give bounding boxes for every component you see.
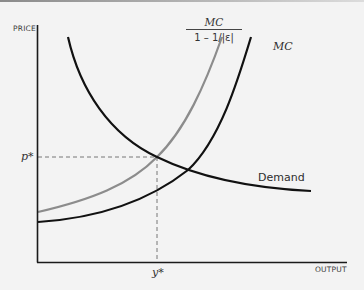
x-axis-label: OUTPUT — [315, 266, 347, 274]
y-axis-label: PRICE — [13, 25, 36, 33]
equilibrium-output-label: y* — [152, 267, 164, 278]
markup-mc-denominator: 1 – 1/|ε| — [186, 30, 242, 43]
diagram-canvas — [0, 0, 364, 290]
markup-mc-numerator: MC — [186, 16, 242, 30]
mc-curve-label: MC — [273, 41, 293, 52]
demand-curve-label: Demand — [258, 172, 305, 183]
markup-mc-curve-label: MC 1 – 1/|ε| — [186, 16, 242, 43]
mc-curve — [38, 37, 251, 222]
equilibrium-price-label: p* — [21, 151, 34, 162]
markup-mc-curve — [38, 37, 222, 212]
